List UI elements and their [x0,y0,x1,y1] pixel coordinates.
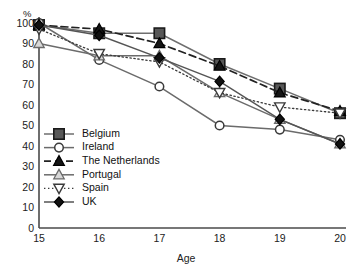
series-line [39,25,340,111]
x-axis-title: Age [177,252,196,264]
data-point-marker [54,129,64,139]
legend-label: The Netherlands [82,154,160,166]
data-point-marker [55,143,64,152]
y-tick-label: 60 [22,99,34,111]
legend-item-belgium[interactable]: Belgium [44,127,120,139]
series-uk [34,20,344,149]
chart-legend: BelgiumIrelandThe NetherlandsPortugalSpa… [44,127,160,207]
series-the-netherlands [34,19,346,115]
data-point-marker [215,76,224,86]
legend-item-portugal[interactable]: Portugal [44,168,121,180]
y-axis-unit-label: % [23,8,32,19]
y-tick-label: 90 [22,37,34,49]
x-tick-label: 20 [334,232,346,244]
x-tick-label: 19 [274,232,286,244]
y-tick-label: 10 [22,201,34,213]
series-line [39,29,340,113]
data-point-marker [54,184,64,193]
x-axis-tick-labels: 151617181920 [33,232,346,244]
y-tick-label: 70 [22,78,34,90]
data-point-marker [276,125,285,134]
y-tick-label: 30 [22,160,34,172]
data-series-group [34,19,346,149]
data-point-marker [275,103,285,112]
data-point-marker [155,82,164,91]
line-chart: 0102030405060708090100 151617181920 % Ag… [0,0,353,272]
legend-label: Ireland [82,140,114,152]
data-point-marker [215,121,224,130]
legend-label: Portugal [82,168,121,180]
legend-label: Spain [82,181,109,193]
y-axis-tick-labels: 0102030405060708090100 [16,17,34,234]
legend-label: Belgium [82,127,120,139]
legend-item-the-netherlands[interactable]: The Netherlands [44,154,160,166]
legend-label: UK [82,195,97,207]
legend-item-spain[interactable]: Spain [44,181,109,193]
y-tick-label: 20 [22,181,34,193]
y-tick-label: 40 [22,140,34,152]
chart-container: 0102030405060708090100 151617181920 % Ag… [0,0,353,272]
series-ireland [35,19,345,144]
x-tick-label: 15 [33,232,45,244]
data-point-marker [154,38,165,48]
series-spain [34,25,345,118]
x-tick-label: 18 [214,232,226,244]
legend-item-ireland[interactable]: Ireland [44,140,114,152]
x-tick-label: 17 [154,232,166,244]
series-line [39,23,340,140]
y-tick-label: 50 [22,119,34,131]
y-tick-label: 80 [22,58,34,70]
x-tick-label: 16 [93,232,105,244]
legend-item-uk[interactable]: UK [44,195,97,207]
data-point-marker [34,38,44,47]
data-point-marker [54,197,63,207]
